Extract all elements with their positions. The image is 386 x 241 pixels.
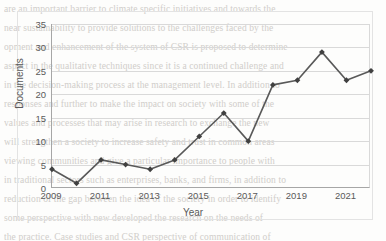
x-axis-title: Year: [0, 207, 386, 218]
x-tick-label: 2009: [40, 190, 61, 201]
x-tick-label: 2015: [188, 190, 209, 201]
y-tick-label: 5: [10, 159, 46, 170]
documents-per-year-line-chart: 05101520253035 2009201120132015201720192…: [0, 0, 386, 241]
x-tick-label: 2017: [237, 190, 258, 201]
x-tick-label: 2013: [139, 190, 160, 201]
series-line: [52, 52, 371, 183]
series-documents: [52, 24, 371, 188]
data-point-marker: [270, 82, 276, 88]
x-tick-label: 2019: [286, 190, 307, 201]
plot-area: [51, 24, 370, 188]
x-tick-label: 2011: [90, 190, 110, 201]
data-point-marker: [147, 166, 153, 172]
x-tick-label: 2021: [335, 190, 356, 201]
data-point-marker: [123, 162, 129, 168]
y-axis-title: Documents: [14, 29, 25, 139]
